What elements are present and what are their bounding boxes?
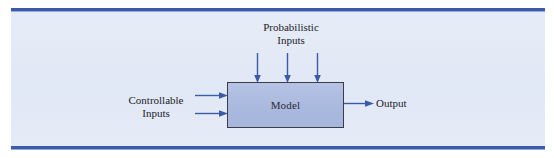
model-box: Model: [227, 82, 344, 128]
probabilistic-arrow-2: [283, 53, 292, 83]
model-box-label: Model: [228, 83, 343, 127]
controllable-arrow-1: [195, 91, 228, 100]
probabilistic-arrow-3: [313, 53, 322, 83]
bottom-rule: [11, 146, 545, 149]
probabilistic-inputs-label: Probabilistic Inputs: [251, 21, 331, 46]
probabilistic-inputs-line1: Probabilistic: [251, 21, 331, 34]
controllable-inputs-line1: Controllable: [120, 94, 192, 107]
output-label-text: Output: [376, 97, 407, 110]
controllable-inputs-label: Controllable Inputs: [120, 94, 192, 119]
figure-diagram: Probabilistic Inputs Controllable Inputs: [0, 0, 554, 158]
output-arrow: [344, 99, 374, 108]
top-rule: [11, 8, 545, 11]
controllable-inputs-line2: Inputs: [120, 107, 192, 120]
output-label: Output: [376, 97, 407, 110]
probabilistic-inputs-line2: Inputs: [251, 34, 331, 47]
probabilistic-arrow-1: [253, 53, 262, 83]
controllable-arrow-2: [195, 109, 228, 118]
